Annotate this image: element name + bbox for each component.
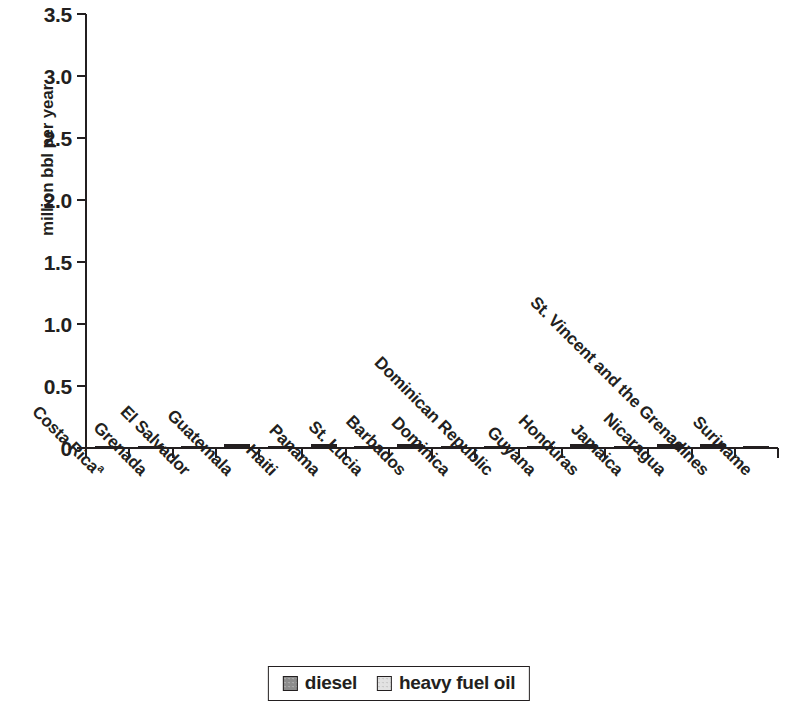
bar-slot (259, 14, 302, 448)
legend-label: diesel (305, 672, 357, 694)
bar-slot (129, 14, 172, 448)
chart-legend: dieselheavy fuel oil (268, 666, 530, 701)
bar-slot (173, 14, 216, 448)
y-tick-mark (77, 385, 86, 387)
y-tick-label: 3.0 (44, 65, 72, 89)
x-tick-label-superscript: a (95, 462, 108, 475)
legend-item[interactable]: heavy fuel oil (377, 672, 515, 694)
y-tick-label: 0.5 (44, 375, 72, 399)
bar-slot (519, 14, 562, 448)
x-label-slot: Dominican Republic (475, 462, 518, 652)
x-label-slot: Haiti (259, 462, 302, 652)
heavy-fuel-oil-swatch (377, 676, 392, 691)
bar-slot (648, 14, 691, 448)
x-label-slot: Grenada (129, 462, 172, 652)
x-label-slot: Panama (302, 462, 345, 652)
diesel-swatch (283, 676, 298, 691)
x-label-slot: Costa Ricaa (86, 462, 129, 652)
y-tick-mark (77, 261, 86, 263)
y-tick-mark (77, 323, 86, 325)
x-label-slot: St. Vincent and the Grenadines (692, 462, 735, 652)
bar-slot (475, 14, 518, 448)
bar-group (86, 14, 778, 448)
legend-item[interactable]: diesel (283, 672, 357, 694)
legend-label: heavy fuel oil (399, 672, 515, 694)
x-label-slot: Suriname (735, 462, 778, 652)
y-tick-mark (77, 75, 86, 77)
x-label-slot: El Salvador (173, 462, 216, 652)
x-label-slot: Guyana (519, 462, 562, 652)
x-label-slot: Barbados (389, 462, 432, 652)
x-label-slot: Honduras (562, 462, 605, 652)
bar-slot (562, 14, 605, 448)
x-label-slot: Nicaragua (648, 462, 691, 652)
bar-slot (735, 14, 778, 448)
y-tick-mark (77, 137, 86, 139)
stacked-bar-chart: million bbl per year 00.51.01.52.02.53.0… (0, 0, 798, 706)
bar-slot (692, 14, 735, 448)
x-label-slot: Jamaica (605, 462, 648, 652)
x-label-slot: Guatemala (216, 462, 259, 652)
y-tick-label: 1.5 (44, 251, 72, 275)
y-tick-label: 2.5 (44, 127, 72, 151)
y-tick-label: 1.0 (44, 313, 72, 337)
bar-slot (216, 14, 259, 448)
bar-slot (346, 14, 389, 448)
y-tick-mark (77, 199, 86, 201)
bar-slot (86, 14, 129, 448)
y-tick-mark (77, 13, 86, 15)
x-label-slot: St. Lucia (346, 462, 389, 652)
x-axis-labels: Costa RicaaGrenadaEl SalvadorGuatemalaHa… (86, 462, 778, 652)
bar-slot (432, 14, 475, 448)
x-label-slot: Dominica (432, 462, 475, 652)
y-tick-label: 3.5 (44, 3, 72, 27)
plot-area: 00.51.01.52.02.53.03.5 (86, 14, 778, 448)
bar-slot (302, 14, 345, 448)
y-tick-label: 2.0 (44, 189, 72, 213)
